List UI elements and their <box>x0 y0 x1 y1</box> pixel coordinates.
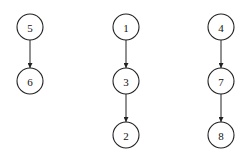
graph-node-2: 2 <box>113 122 139 148</box>
node-label: 5 <box>27 22 33 34</box>
node-label: 6 <box>27 76 33 88</box>
node-label: 1 <box>123 22 129 34</box>
graph-node-4: 4 <box>208 14 234 40</box>
graph-node-6: 6 <box>17 68 43 94</box>
graph-node-3: 3 <box>113 68 139 94</box>
graph-node-5: 5 <box>17 14 43 40</box>
graph-node-8: 8 <box>208 122 234 148</box>
node-label: 4 <box>218 22 224 34</box>
node-label: 8 <box>218 130 224 142</box>
directed-graph: 56132478 <box>0 0 250 157</box>
node-label: 3 <box>123 76 129 88</box>
nodes-layer: 56132478 <box>17 14 234 148</box>
node-label: 7 <box>218 76 224 88</box>
node-label: 2 <box>123 130 129 142</box>
graph-node-7: 7 <box>208 68 234 94</box>
graph-node-1: 1 <box>113 14 139 40</box>
